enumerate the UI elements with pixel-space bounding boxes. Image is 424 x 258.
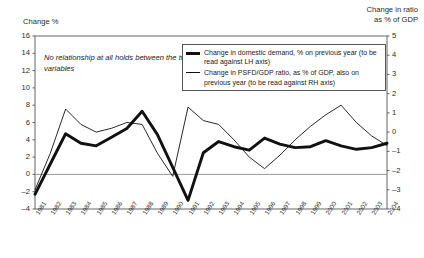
legend-item-psfd-gdp-ratio: Change in PSFD/GDP ratio, as % of GDP, a… — [186, 68, 381, 86]
right-axis-tick: 4 — [392, 51, 408, 59]
right-axis-tick: 2 — [392, 90, 408, 98]
left-axis-tick: 4 — [14, 136, 30, 144]
legend-item-domestic-demand: Change in domestic demand, % on previous… — [186, 48, 381, 66]
series-line-1 — [35, 111, 387, 200]
legend-label-psfd-gdp-ratio: Change in PSFD/GDP ratio, as % of GDP, a… — [204, 68, 381, 86]
chart-annotation: No relationship at all holds between the… — [44, 52, 192, 74]
right-axis-tick: –3 — [392, 186, 408, 194]
chart-legend: Change in domestic demand, % on previous… — [182, 44, 386, 91]
chart-container: Change % Change in ratio as % of GDP –4–… — [0, 0, 424, 258]
right-axis-tick: 5 — [392, 32, 408, 40]
left-axis-tick: –2 — [14, 188, 30, 196]
legend-swatch-thick-icon — [186, 52, 200, 55]
left-axis-tick: 0 — [14, 170, 30, 178]
left-axis-tick: 6 — [14, 119, 30, 127]
left-axis-tick: 8 — [14, 101, 30, 109]
right-axis-tick: 3 — [392, 70, 408, 78]
left-axis-tick: 14 — [14, 49, 30, 57]
plot-area — [0, 0, 424, 258]
left-axis-tick: 10 — [14, 84, 30, 92]
left-axis-tick: 16 — [14, 32, 30, 40]
right-axis-tick: 0 — [392, 128, 408, 136]
left-axis-tick: 2 — [14, 153, 30, 161]
left-axis-tick: 12 — [14, 67, 30, 75]
legend-label-domestic-demand: Change in domestic demand, % on previous… — [204, 48, 381, 66]
left-axis-tick: –4 — [14, 205, 30, 213]
right-axis-tick: 1 — [392, 109, 408, 117]
right-axis-tick: –2 — [392, 167, 408, 175]
legend-swatch-thin-icon — [186, 72, 200, 73]
right-axis-tick: –1 — [392, 147, 408, 155]
